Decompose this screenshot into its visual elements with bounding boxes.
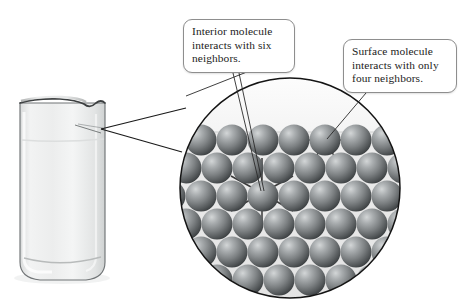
magnified-view: [140, 74, 453, 298]
callout-interior-line-2: interacts with six: [192, 39, 287, 53]
callout-interior-line-1: Interior molecule: [192, 25, 287, 39]
disc-inner-shading: [396, 92, 452, 284]
callout-interior-molecule: Interior molecule interacts with six nei…: [183, 19, 295, 73]
figure-root: Interior molecule interacts with six nei…: [0, 0, 465, 301]
callout-surface-line-3: four neighbors.: [352, 72, 449, 86]
callout-surface-line-1: Surface molecule: [352, 45, 449, 59]
callout-interior-line-3: neighbors.: [192, 52, 287, 66]
callout-surface-molecule: Surface molecule interacts with only fou…: [343, 39, 457, 93]
callout-surface-line-2: interacts with only: [352, 59, 449, 73]
cone-lower-edge: [101, 129, 182, 152]
magnifier-cone: [101, 108, 186, 152]
beaker-body: [20, 103, 105, 280]
beaker-group: [14, 97, 110, 284]
cone-upper-edge: [101, 108, 186, 129]
